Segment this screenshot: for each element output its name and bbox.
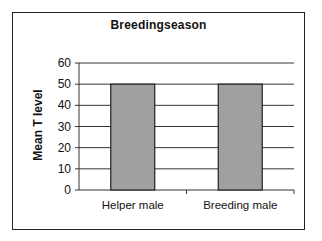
plot-area: 0102030405060Helper maleBreeding male bbox=[0, 0, 322, 241]
bar-breeding-male bbox=[218, 84, 262, 190]
x-category-label: Breeding male bbox=[203, 199, 277, 211]
y-tick-label: 50 bbox=[58, 77, 72, 91]
x-category-label: Helper male bbox=[102, 199, 164, 211]
y-tick-label: 30 bbox=[58, 120, 72, 134]
bar-helper-male bbox=[111, 84, 155, 190]
y-tick-label: 40 bbox=[58, 98, 72, 112]
y-tick-label: 10 bbox=[58, 162, 72, 176]
y-tick-label: 20 bbox=[58, 141, 72, 155]
y-tick-label: 60 bbox=[58, 56, 72, 70]
y-tick-label: 0 bbox=[64, 183, 71, 197]
